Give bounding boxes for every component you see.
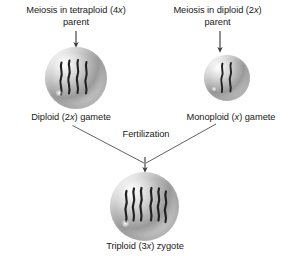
triploid-zygote-label: Triploid (3x) zygote <box>85 241 205 253</box>
chromosomes-diploid <box>45 47 107 109</box>
triploid-zygote-cell <box>110 172 179 241</box>
left-heading-line2: parent <box>0 17 152 29</box>
diagram-canvas: Meiosis in tetraploid (4x) parent Meiosi… <box>0 0 290 256</box>
left-heading-line1: Meiosis in tetraploid (4x) <box>0 5 152 17</box>
diploid-gamete-cell <box>45 47 107 109</box>
fertilization-label: Fertilization <box>104 129 188 141</box>
diploid-gamete-label: Diploid (2x) gamete <box>10 112 132 124</box>
monoploid-gamete-cell <box>204 55 250 101</box>
right-heading-line1: Meiosis in diploid (2x) <box>145 5 290 17</box>
left-branch-heading: Meiosis in tetraploid (4x) parent <box>0 5 152 28</box>
monoploid-gamete-label: Monoploid (x) gamete <box>172 112 290 124</box>
chromosomes-monoploid <box>204 55 250 101</box>
right-branch-heading: Meiosis in diploid (2x) parent <box>145 5 290 28</box>
right-heading-line2: parent <box>145 17 290 29</box>
chromosomes-triploid <box>110 172 179 241</box>
